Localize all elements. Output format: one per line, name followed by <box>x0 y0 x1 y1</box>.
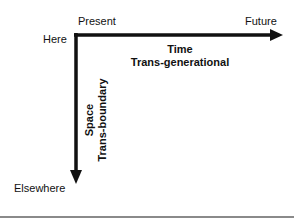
time-axis-title: Time <box>120 43 240 56</box>
present-label: Present <box>78 16 116 27</box>
bottom-rule <box>0 216 294 218</box>
here-label: Here <box>43 34 67 45</box>
future-label: Future <box>245 16 277 27</box>
space-axis-title: Space <box>83 70 96 170</box>
time-axis-subtitle: Trans-generational <box>120 56 240 69</box>
space-arrowhead-icon <box>70 170 82 184</box>
space-axis-caption: Space Trans-boundary <box>83 70 109 170</box>
time-axis-caption: Time Trans-generational <box>120 43 240 69</box>
space-axis-subtitle: Trans-boundary <box>96 70 109 170</box>
time-arrowhead-icon <box>270 29 283 41</box>
elsewhere-label: Elsewhere <box>14 183 65 194</box>
